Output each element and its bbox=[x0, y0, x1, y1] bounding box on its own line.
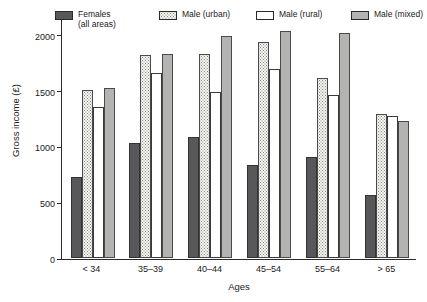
bar bbox=[398, 121, 409, 258]
y-axis-title: Gross income (£) bbox=[8, 0, 22, 240]
bar bbox=[71, 177, 82, 257]
bar bbox=[328, 95, 339, 258]
bar bbox=[129, 143, 140, 258]
legend-label-male-urban: Male (urban) bbox=[182, 10, 230, 20]
bar-groups bbox=[63, 20, 416, 258]
y-axis-tick-label: 500 bbox=[40, 199, 55, 209]
legend-swatch-females-icon bbox=[55, 11, 73, 20]
bar-group bbox=[240, 20, 299, 258]
bar-chart: Females (all areas) Male (urban) Male (r… bbox=[0, 0, 427, 302]
y-axis-tick-mark bbox=[57, 147, 62, 148]
y-axis-title-text: Gross income (£) bbox=[10, 84, 21, 157]
legend-label-male-rural: Male (rural) bbox=[279, 10, 322, 20]
legend-label-male-mixed: Male (mixed) bbox=[374, 10, 423, 20]
legend-item-male-rural: Male (rural) bbox=[256, 10, 351, 20]
legend-swatch-male-rural-icon bbox=[256, 11, 274, 20]
x-axis-tick-label: 40–44 bbox=[180, 264, 239, 274]
y-axis-tick-label: 2000 bbox=[35, 31, 55, 41]
y-axis-tick-label: 1500 bbox=[35, 87, 55, 97]
plot-area: 0500100015002000 bbox=[61, 20, 416, 260]
bar bbox=[221, 36, 232, 258]
x-axis-tick-label: < 34 bbox=[62, 264, 121, 274]
bar bbox=[317, 78, 328, 258]
bar bbox=[280, 31, 291, 258]
bar-group bbox=[122, 20, 181, 258]
x-axis-tick-label: > 65 bbox=[357, 264, 416, 274]
x-axis-tick-label: 35–39 bbox=[121, 264, 180, 274]
bar-group bbox=[357, 20, 416, 258]
bar bbox=[210, 92, 221, 258]
y-axis-tick-mark bbox=[57, 91, 62, 92]
x-axis-tick-label: 45–54 bbox=[239, 264, 298, 274]
bar bbox=[258, 42, 269, 257]
bar bbox=[387, 116, 398, 258]
bar bbox=[93, 107, 104, 258]
x-axis-title: Ages bbox=[62, 281, 416, 292]
bar bbox=[365, 195, 376, 258]
bar bbox=[140, 55, 151, 258]
x-axis-tick-labels: < 3435–3940–4445–5455–64> 65 bbox=[62, 264, 416, 274]
bar-group bbox=[63, 20, 122, 258]
bar bbox=[188, 137, 199, 258]
legend-item-male-mixed: Male (mixed) bbox=[351, 10, 425, 20]
bar bbox=[82, 90, 93, 257]
bar-group bbox=[181, 20, 240, 258]
y-axis-tick-mark bbox=[57, 203, 62, 204]
bar-group bbox=[298, 20, 357, 258]
y-axis-tick-mark bbox=[57, 35, 62, 36]
bar bbox=[339, 33, 350, 257]
legend-swatch-male-mixed-icon bbox=[351, 11, 369, 20]
bar bbox=[269, 69, 280, 258]
legend-swatch-male-urban-icon bbox=[159, 11, 177, 20]
y-axis-tick-label: 0 bbox=[50, 255, 55, 265]
bar bbox=[306, 157, 317, 257]
y-axis-tick-label: 1000 bbox=[35, 143, 55, 153]
legend-item-male-urban: Male (urban) bbox=[159, 10, 256, 20]
bar bbox=[199, 54, 210, 258]
bar bbox=[247, 165, 258, 258]
bar bbox=[162, 54, 173, 258]
bar bbox=[104, 88, 115, 258]
bar bbox=[151, 73, 162, 258]
y-axis-tick-mark bbox=[57, 259, 62, 260]
x-axis-tick-label: 55–64 bbox=[298, 264, 357, 274]
bar bbox=[376, 114, 387, 258]
